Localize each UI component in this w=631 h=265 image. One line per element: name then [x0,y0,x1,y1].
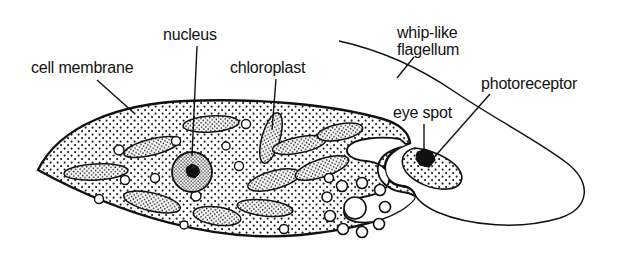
vacuole [280,225,289,234]
label-cell-membrane: cell membrane [31,59,133,76]
euglena-illustration [0,0,631,265]
vacuole [95,195,104,204]
accessory-vacuole [325,211,336,222]
accessory-vacuole [374,219,385,230]
vacuole [114,145,124,155]
label-flagellum-line1: whip-like [397,24,457,41]
accessory-vacuole [375,185,386,196]
figure-euglena-diagram: cell membrane nucleus chloroplast whip-l… [0,0,631,265]
vacuole [180,221,188,229]
accessory-vacuole [357,227,368,238]
contractile-vacuole [344,197,366,219]
accessory-vacuole [338,224,349,235]
leader-cell-membrane [97,80,134,113]
vacuole [242,120,251,129]
nucleus-shape [172,152,212,192]
accessory-vacuole [322,192,332,202]
vacuole [172,137,181,146]
accessory-vacuole [357,178,368,189]
accessory-vacuole [380,202,391,213]
accessory-vacuole [337,181,348,192]
vacuole [151,174,160,183]
vacuole [222,142,230,150]
label-flagellum-line2: flagellum [397,41,459,58]
label-photoreceptor: photoreceptor [481,75,577,92]
label-whip-like-flagellum: whip-likeflagellum [397,24,459,58]
vacuole [121,176,130,185]
label-eye-spot: eye spot [393,104,452,121]
label-nucleus: nucleus [163,26,217,43]
label-chloroplast: chloroplast [230,59,305,76]
vacuole [235,162,244,171]
accessory-vacuole [325,174,334,183]
